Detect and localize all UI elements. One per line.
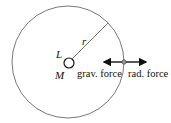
radius-label: r [82, 35, 87, 47]
grav-force-label: grav. force [77, 68, 122, 79]
radius-line [72, 23, 108, 59]
rad-force-label: rad. force [128, 68, 169, 79]
luminosity-label: L [55, 48, 62, 60]
central-star-circle [64, 58, 74, 68]
test-particle [122, 60, 126, 64]
mass-label: M [54, 69, 65, 81]
star-force-diagram: r L M grav. force rad. force [0, 0, 171, 123]
